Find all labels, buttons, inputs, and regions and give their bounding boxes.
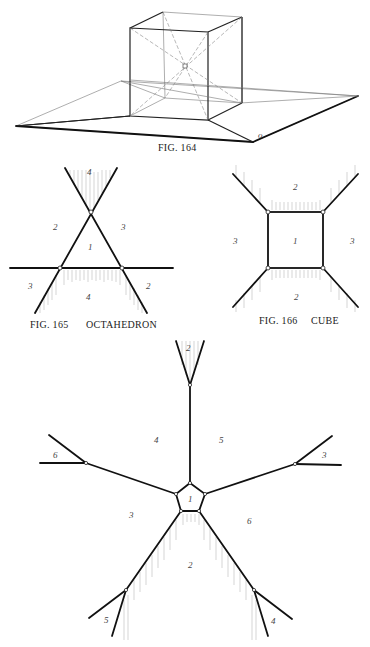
region-label: 3 (27, 281, 33, 291)
region-label: 6 (53, 450, 58, 460)
region-label: 1 (293, 236, 298, 246)
region-label: 4 (86, 292, 91, 302)
fig165-caption-number: FIG. 165 (30, 319, 69, 330)
region-label: 5 (219, 435, 224, 445)
region-label: 4 (271, 616, 276, 626)
vertex-node (197, 509, 200, 512)
region-label: 3 (128, 510, 134, 520)
vertex-node (266, 266, 270, 270)
region-label: 3 (120, 222, 126, 232)
vertex-node (252, 588, 255, 591)
fig164-caption: FIG. 164 (158, 142, 197, 153)
region-label: 3 (349, 236, 355, 246)
region-label: 2 (294, 292, 299, 302)
region-label: 2 (293, 182, 298, 192)
vertex-node (124, 588, 127, 591)
vertex-node (188, 481, 191, 484)
region-label: 3 (232, 236, 238, 246)
region-label: 6 (247, 516, 252, 526)
fig167-dodecahedron-diagram: 2 4 5 6 3 1 3 6 2 5 4 (40, 341, 341, 640)
region-label: 2 (146, 281, 151, 291)
vertex-node (203, 492, 206, 495)
center-point (183, 64, 187, 68)
vertex-node (89, 210, 93, 214)
region-label: 4 (154, 435, 159, 445)
fig164-cube-projection: o FIG. 164 (16, 12, 358, 153)
region-label: 4 (87, 167, 92, 177)
fig166-caption-name: CUBE (311, 315, 339, 326)
vertex-node (321, 210, 325, 214)
vertex-node (58, 266, 62, 270)
region-label: 5 (104, 615, 109, 625)
vertex-node (179, 509, 182, 512)
figure-plate: o FIG. 164 (0, 0, 370, 647)
region-label: 1 (88, 242, 93, 252)
vertex-node (188, 383, 191, 386)
vertex-node (321, 266, 325, 270)
fig165-caption-name: OCTAHEDRON (86, 319, 157, 330)
corner-mark: o (258, 130, 263, 140)
fig166-caption-number: FIG. 166 (259, 315, 298, 326)
region-label: 1 (188, 494, 193, 504)
vertex-node (84, 461, 87, 464)
vertex-node (293, 462, 296, 465)
fig166-cube-diagram: 2 3 1 3 2 FIG. 166 CUBE (232, 165, 358, 326)
vertex-node (266, 210, 270, 214)
region-label: 2 (186, 343, 191, 353)
region-label: 3 (321, 450, 327, 460)
fig165-octahedron-diagram: 4 2 3 1 3 4 2 FIG. 165 OCTAHEDRON (10, 167, 173, 330)
region-label: 2 (53, 222, 58, 232)
vertex-node (120, 266, 124, 270)
region-label: 2 (188, 560, 193, 570)
vertex-node (174, 492, 177, 495)
